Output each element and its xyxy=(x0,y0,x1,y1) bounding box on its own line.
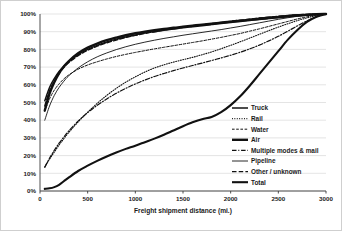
legend-item-label: Water xyxy=(251,126,269,133)
y-axis-tick-label: 70% xyxy=(24,63,37,70)
y-axis-tick-label: 60% xyxy=(24,81,37,88)
x-axis-tick-label: 2000 xyxy=(224,195,238,202)
x-axis-tick-label: 0 xyxy=(38,195,42,202)
legend-item-label: Total xyxy=(251,179,266,186)
y-axis-tick-label: 30% xyxy=(24,134,37,141)
legend-item-label: Truck xyxy=(251,104,268,111)
x-axis-tick-label: 1500 xyxy=(176,195,190,202)
x-axis-tick-label: 3000 xyxy=(319,195,333,202)
y-axis-tick-label: 80% xyxy=(24,46,37,53)
x-axis-tick-labels: 050010001500200025003000 xyxy=(38,195,333,202)
series-line xyxy=(45,14,326,167)
gridlines xyxy=(40,14,326,191)
freight-distance-cdf-chart: 0%10%20%30%40%50%60%70%80%90%100% 050010… xyxy=(1,1,342,231)
y-axis-tick-label: 90% xyxy=(24,28,37,35)
chart-figure: 0%10%20%30%40%50%60%70%80%90%100% 050010… xyxy=(0,0,342,231)
y-axis-tick-label: 0% xyxy=(27,187,36,194)
x-axis-tick-label: 500 xyxy=(83,195,94,202)
series-line xyxy=(45,14,326,189)
legend-item-label: Air xyxy=(251,136,260,143)
x-axis-tick-label: 2500 xyxy=(271,195,285,202)
legend-item-label: Multiple modes & mail xyxy=(251,147,319,155)
series-line xyxy=(45,14,326,167)
y-axis-tick-label: 20% xyxy=(24,152,37,159)
legend-item-label: Rail xyxy=(251,115,263,122)
axis-lines xyxy=(40,14,326,194)
y-axis-tick-labels: 0%10%20%30%40%50%60%70%80%90%100% xyxy=(20,10,36,194)
y-axis-tick-label: 50% xyxy=(24,99,37,106)
x-axis-tick-label: 1000 xyxy=(128,195,142,202)
y-axis-tick-label: 40% xyxy=(24,116,37,123)
y-axis-tick-label: 10% xyxy=(24,170,37,177)
legend-item-label: Other / unknown xyxy=(251,168,302,175)
legend-item-label: Pipeline xyxy=(251,157,276,165)
y-axis-tick-label: 100% xyxy=(20,10,36,17)
x-axis-title: Freight shipment distance (mi.) xyxy=(134,207,232,215)
series-lines xyxy=(45,14,326,189)
